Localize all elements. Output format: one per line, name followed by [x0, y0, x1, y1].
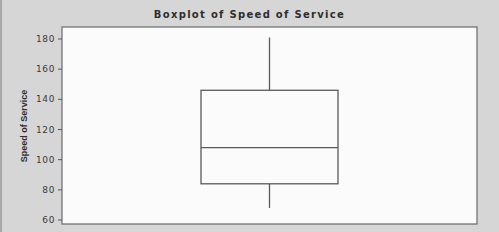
y-tick-label: 120 — [36, 125, 55, 135]
y-tick-label: 100 — [36, 155, 55, 165]
y-tick-label: 140 — [36, 94, 55, 104]
y-tick-label: 60 — [42, 215, 55, 225]
y-tick-label: 180 — [36, 34, 55, 44]
y-tick-label: 80 — [42, 185, 55, 195]
y-tick-label: 160 — [36, 64, 55, 74]
y-axis-ticks: 6080100120140160180 — [36, 34, 62, 225]
boxplot-chart: 6080100120140160180 — [0, 0, 499, 232]
